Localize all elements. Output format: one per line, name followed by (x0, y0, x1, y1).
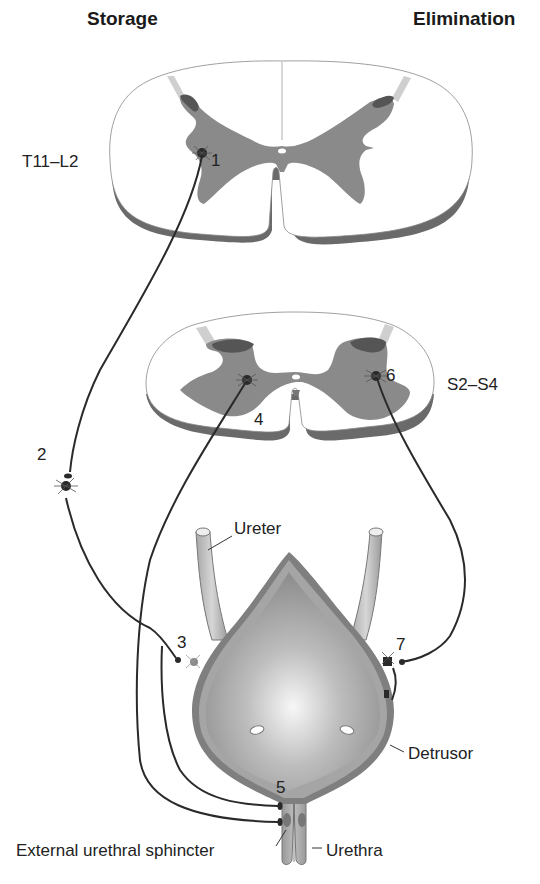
ureter-leader-line (208, 536, 232, 550)
neuron-7-label: 7 (396, 636, 405, 653)
elimination-header: Elimination (413, 9, 515, 28)
neuron-2-icon (54, 474, 78, 495)
micturition-diagram: Storage Elimination T11–L2 S2–S4 1 2 3 4… (0, 0, 540, 884)
neuron-4-label: 4 (254, 411, 263, 428)
upper-spinal-level-label: T11–L2 (22, 153, 78, 170)
detrusor-fiber (392, 668, 396, 700)
urethra-label: Urethra (326, 842, 383, 859)
neuron-6-label: 6 (386, 367, 395, 384)
neuron-1-label: 1 (211, 152, 220, 169)
neuron-3-icon (175, 655, 200, 668)
detrusor-leader-line (390, 745, 404, 752)
urethra-tube (282, 800, 306, 865)
upper-spinal-cord-section (110, 61, 473, 245)
ureter-label: Ureter (234, 520, 281, 537)
postganglionic-sympathetic-nerve (66, 498, 176, 658)
lower-spinal-level-label: S2–S4 (447, 376, 498, 393)
external-urethral-sphincter-label: External urethral sphincter (16, 842, 214, 859)
detrusor-label: Detrusor (408, 745, 473, 762)
storage-header: Storage (87, 9, 158, 28)
neuron-3-label: 3 (177, 634, 186, 651)
neuron-2-label: 2 (37, 446, 46, 463)
neuron-5-label: 5 (276, 779, 285, 796)
